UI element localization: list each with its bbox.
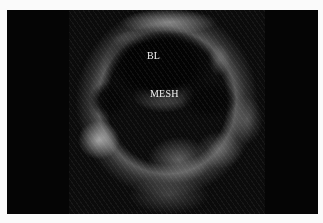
speckle-texture — [69, 10, 265, 214]
ultrasound-frame — [7, 10, 318, 214]
ultrasound-scan-area — [69, 10, 265, 214]
mesh-label: MESH — [150, 89, 179, 99]
bladder-label: BL — [147, 51, 160, 61]
